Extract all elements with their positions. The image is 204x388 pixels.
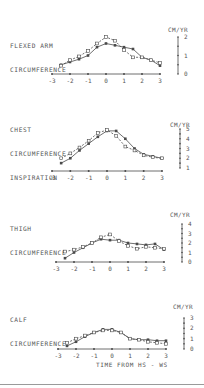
x-axis-tick <box>163 261 165 263</box>
x-axis-tick <box>93 348 95 350</box>
dashed-series-marker <box>105 36 108 39</box>
x-axis-tick <box>55 261 57 263</box>
dashed-series-marker <box>106 129 109 132</box>
dashed-series-marker <box>133 149 136 152</box>
y-axis-tick <box>177 55 179 57</box>
dashed-series-marker <box>141 56 144 59</box>
dashed-series-marker <box>124 145 127 148</box>
y-axis-tick <box>179 148 181 150</box>
y-tick-label: 1 <box>188 249 192 256</box>
y-axis-tick <box>183 343 185 345</box>
y-tick-label: 1 <box>190 335 194 342</box>
dashed-series-marker <box>115 134 118 137</box>
x-tick-label: 0 <box>110 352 114 359</box>
y-axis-tick <box>179 138 181 140</box>
y-axis-tick <box>181 261 183 263</box>
dashed-series-marker <box>69 152 72 155</box>
solid-series-marker <box>78 149 81 152</box>
y-axis-tick <box>181 247 183 249</box>
x-tick-label: 3 <box>164 352 168 359</box>
y-axis-tick <box>183 348 185 350</box>
x-axis-tick <box>147 348 149 350</box>
x-axis-tick <box>145 261 147 263</box>
x-tick-label: 0 <box>108 265 112 272</box>
x-axis-tick <box>141 73 143 75</box>
dashed-series-marker <box>96 132 99 135</box>
y-tick-label: 0 <box>190 345 194 352</box>
x-axis-tick <box>88 170 90 172</box>
x-tick-label: 3 <box>158 77 162 84</box>
x-axis-tick <box>127 261 129 263</box>
y-axis-tick <box>179 157 181 159</box>
solid-series-marker <box>87 142 90 145</box>
y-tick-label: 2 <box>184 33 188 40</box>
y-tick-label: 5 <box>186 125 190 132</box>
dashed-series-marker <box>66 341 69 344</box>
x-tick-label: 1 <box>124 174 128 181</box>
dashed-series-marker <box>136 247 139 250</box>
x-axis-tick <box>165 348 167 350</box>
x-axis-tick <box>73 261 75 263</box>
solid-series-marker <box>69 157 72 160</box>
y-tick-label: 2 <box>188 239 192 246</box>
solid-series-marker <box>124 137 127 140</box>
dashed-series-marker <box>60 64 63 67</box>
solid-series-marker <box>154 243 157 246</box>
chart-canvas: -3-2-10123012-3-2-1012312345-3-2-1012301… <box>0 0 204 388</box>
x-tick-label: 1 <box>126 265 130 272</box>
y-tick-label: 4 <box>188 220 192 227</box>
y-tick-label: 3 <box>190 314 194 321</box>
x-axis-tick <box>51 73 53 75</box>
y-axis-tick <box>183 328 185 330</box>
y-axis-tick <box>183 322 185 324</box>
x-axis-tick <box>69 73 71 75</box>
x-axis-tick <box>159 73 161 75</box>
solid-series-line <box>61 131 162 163</box>
solid-series-marker <box>78 58 81 61</box>
x-tick-label: 2 <box>146 352 150 359</box>
x-tick-label: 1 <box>122 77 126 84</box>
y-axis-tick <box>181 237 183 239</box>
y-axis-tick <box>181 256 183 258</box>
dashed-series-marker <box>109 233 112 236</box>
dashed-series-marker <box>82 245 85 248</box>
y-axis-tick <box>181 228 183 230</box>
dashed-series-marker <box>138 338 141 341</box>
x-tick-label: 0 <box>105 174 109 181</box>
dashed-series-marker <box>64 250 67 253</box>
dashed-series-marker <box>84 334 87 337</box>
solid-series-marker <box>127 242 130 245</box>
x-axis-tick <box>57 348 59 350</box>
y-axis-tick <box>181 223 183 225</box>
solid-series-marker <box>87 54 90 57</box>
y-axis-tick <box>177 73 179 75</box>
y-axis-tick <box>179 143 181 145</box>
solid-series-marker <box>115 130 118 133</box>
y-axis-tick <box>179 128 181 130</box>
dashed-series-marker <box>100 236 103 239</box>
y-tick-label: 3 <box>188 230 192 237</box>
dashed-series-marker <box>93 331 96 334</box>
bottom-divider <box>0 384 204 385</box>
x-axis-tick <box>51 170 53 172</box>
y-tick-label: 3 <box>186 145 190 152</box>
solid-series-marker <box>123 46 126 49</box>
dashed-series-marker <box>111 329 114 332</box>
x-tick-label: -3 <box>52 265 60 272</box>
x-tick-label: -3 <box>48 174 56 181</box>
dashed-series-marker <box>120 331 123 334</box>
dashed-series-marker <box>69 59 72 62</box>
x-axis-tick <box>91 261 93 263</box>
solid-series-marker <box>75 340 78 343</box>
x-axis-tick <box>109 261 111 263</box>
y-tick-label: 1 <box>184 52 188 59</box>
x-axis-tick <box>129 348 131 350</box>
y-axis-tick <box>179 133 181 135</box>
x-tick-label: 0 <box>104 77 108 84</box>
x-axis-tick <box>69 170 71 172</box>
dashed-series-marker <box>156 341 159 344</box>
solid-series-marker <box>109 239 112 242</box>
dashed-series-marker <box>161 157 164 160</box>
solid-series-marker <box>66 345 69 348</box>
solid-series-marker <box>136 243 139 246</box>
